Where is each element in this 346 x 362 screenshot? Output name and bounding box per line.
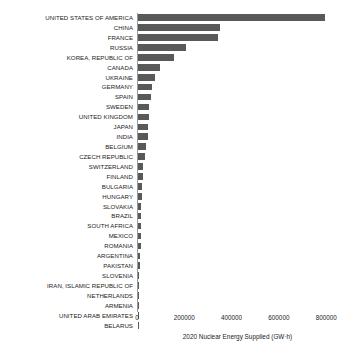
y-axis-label: BULGARIA (0, 182, 133, 192)
y-axis-label: INDIA (0, 132, 133, 142)
bar-row (138, 261, 338, 271)
y-axis-label: PAKISTAN (0, 261, 133, 271)
bar (138, 262, 140, 269)
y-axis-label: UKRAINE (0, 73, 133, 83)
bar (138, 183, 142, 190)
bar (138, 292, 139, 299)
y-axis-label: ARMENIA (0, 301, 133, 311)
bar (138, 84, 152, 91)
bar-row (138, 251, 338, 261)
bar (138, 272, 139, 279)
bar-row (138, 63, 338, 73)
x-axis-tick-label: 400000 (221, 314, 242, 321)
bar-row (138, 112, 338, 122)
bar (138, 94, 151, 101)
bar-row (138, 301, 338, 311)
bar-row (138, 271, 338, 281)
x-axis-tick-label: 800000 (316, 314, 337, 321)
bar (138, 282, 139, 289)
bar (138, 223, 141, 230)
bar-row (138, 211, 338, 221)
bar (138, 24, 220, 31)
bar-row (138, 202, 338, 212)
bar-row (138, 73, 338, 83)
bar-row (138, 281, 338, 291)
y-axis-label: RUSSIA (0, 43, 133, 53)
x-axis-tick-label: 600000 (268, 314, 289, 321)
bar (138, 143, 146, 150)
bar (138, 64, 160, 71)
bar (138, 133, 148, 140)
y-axis-label: NETHERLANDS (0, 291, 133, 301)
y-axis-label: FINLAND (0, 172, 133, 182)
bar-row (138, 231, 338, 241)
bar (138, 243, 141, 250)
y-axis-label: KOREA, REPUBLIC OF (0, 53, 133, 63)
y-axis-label: CANADA (0, 63, 133, 73)
bar-row (138, 142, 338, 152)
bar-row (138, 122, 338, 132)
bar-row (138, 82, 338, 92)
bar-row (138, 162, 338, 172)
y-axis-label: SLOVENIA (0, 271, 133, 281)
bar-row (138, 192, 338, 202)
y-axis-label: UNITED STATES OF AMERICA (0, 13, 133, 23)
bar-row (138, 182, 338, 192)
bar-chart: UNITED STATES OF AMERICACHINAFRANCERUSSI… (0, 0, 346, 362)
y-axis-label: GERMANY (0, 82, 133, 92)
x-axis-tick-labels: 0200000400000600000800000 (0, 314, 346, 326)
bar-row (138, 13, 338, 23)
y-axis-label: HUNGARY (0, 192, 133, 202)
y-axis-label: UNITED KINGDOM (0, 112, 133, 122)
bar (138, 233, 141, 240)
y-axis-label: ARGENTINA (0, 251, 133, 261)
bar (138, 213, 141, 220)
bar-row (138, 221, 338, 231)
bar (138, 173, 143, 180)
y-axis-label: MEXICO (0, 231, 133, 241)
bar-row (138, 33, 338, 43)
bar-row (138, 291, 338, 301)
y-axis-label: JAPAN (0, 122, 133, 132)
y-axis-label: BRAZIL (0, 211, 133, 221)
bar-row (138, 53, 338, 63)
bar (138, 114, 149, 121)
x-axis-title: 2020 Nuclear Energy Supplied (GW·h) (137, 333, 338, 340)
y-axis-label: IRAN, ISLAMIC REPUBLIC OF (0, 281, 133, 291)
y-axis-label: BELGIUM (0, 142, 133, 152)
bar-series (138, 13, 338, 311)
bar-row (138, 152, 338, 162)
y-axis-label: CZECH REPUBLIC (0, 152, 133, 162)
bar (138, 203, 141, 210)
bar (138, 163, 143, 170)
bar (138, 153, 145, 160)
y-axis-label: SPAIN (0, 92, 133, 102)
y-axis-label: SLOVAKIA (0, 202, 133, 212)
bar (138, 302, 139, 309)
bar-row (138, 102, 338, 112)
y-axis-category-labels: UNITED STATES OF AMERICACHINAFRANCERUSSI… (0, 13, 133, 311)
bar (138, 74, 155, 81)
bar-row (138, 43, 338, 53)
y-axis-label: SOUTH AFRICA (0, 221, 133, 231)
x-axis-tick-label: 200000 (174, 314, 195, 321)
y-axis-label: SWEDEN (0, 102, 133, 112)
bar (138, 193, 142, 200)
bar-row (138, 23, 338, 33)
y-axis-label: FRANCE (0, 33, 133, 43)
y-axis-label: ROMANIA (0, 241, 133, 251)
bar (138, 54, 174, 61)
x-axis-tick-label: 0 (135, 314, 139, 321)
bar (138, 104, 149, 111)
bar-row (138, 172, 338, 182)
y-axis-label: SWITZERLAND (0, 162, 133, 172)
bar (138, 124, 148, 131)
bar (138, 44, 186, 51)
bar-row (138, 132, 338, 142)
bar (138, 253, 140, 260)
bar-row (138, 241, 338, 251)
bar-row (138, 92, 338, 102)
bar (138, 14, 325, 21)
y-axis-label: CHINA (0, 23, 133, 33)
bar (138, 34, 218, 41)
